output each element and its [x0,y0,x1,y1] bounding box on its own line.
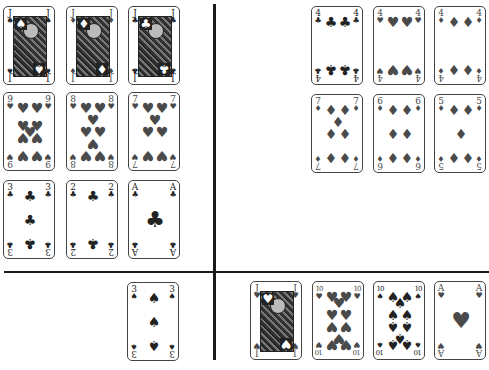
clubs-icon: ♣ [107,191,115,199]
hearts-icon: ♥ [262,293,274,305]
card-index-corner: 10♠ [376,284,384,301]
rank-label: 10 [316,348,323,356]
card-index-corner: 3♠ [130,342,138,358]
card-index-corner: 6♦ [414,97,422,113]
hearts-icon: ♥ [6,152,14,160]
hearts-icon: ♥ [386,63,400,77]
card-index-corner: 10♥ [353,340,361,357]
hearts-icon: ♥ [30,131,44,145]
diamonds-icon: ♦ [454,127,468,141]
jack-portrait: ♠♠ [13,16,47,77]
playing-card-j-of-spades[interactable]: J♠J♠J♠J♠♠♠ [3,6,55,85]
playing-card-a-of-hearts[interactable]: A♥A♥A♥A♥♥ [434,281,486,360]
diamonds-icon: ♦ [461,63,475,77]
clubs-icon: ♣ [86,237,100,251]
playing-card-3-of-spades[interactable]: 3♠3♠3♠3♠♠♠♠ [127,282,179,361]
playing-card-j-of-diamonds[interactable]: J♦J♦J♦J♦♦♦ [66,6,118,85]
spades-icon: ♠ [130,342,138,350]
playing-card-j-of-hearts[interactable]: J♥J♥J♥J♥♥♥ [250,281,302,360]
playing-card-5-of-diamonds[interactable]: 5♦5♦5♦5♦♦♦♦♦♦ [434,94,486,173]
jack-portrait: ♦♦ [76,16,110,77]
spades-icon: ♠ [386,338,400,352]
hearts-icon: ♥ [107,103,115,111]
jack-portrait: ♣♣ [138,16,172,77]
hearts-icon: ♥ [155,125,169,139]
clubs-icon: ♣ [338,15,352,29]
diamonds-icon: ♦ [352,105,360,113]
hearts-icon: ♥ [475,292,483,300]
playing-card-7-of-diamonds[interactable]: 7♦7♦7♦7♦♦♦♦♦♦♦♦ [311,94,363,173]
playing-card-10-of-hearts[interactable]: 10♥10♥10♥10♥♥♥♥♥♥♥♥♥♥♥ [312,281,364,360]
card-index-corner: 10♥ [353,284,361,301]
rank-label: 10 [354,348,361,356]
card-index-corner: 5♦ [437,97,445,113]
card-index-corner: 3♠ [168,285,176,301]
playing-card-7-of-hearts[interactable]: 7♥7♥7♥7♥♥♥♥♥♥♥♥ [128,92,180,171]
playing-card-9-of-hearts[interactable]: 9♥9♥9♥9♥♥♥♥♥♥♥♥♥♥ [3,92,55,171]
hearts-icon: ♥ [315,293,323,301]
horizontal-divider [4,271,489,273]
diamonds-icon: ♦ [437,154,445,162]
diamonds-icon: ♦ [437,105,445,113]
clubs-icon: ♣ [23,237,37,251]
hearts-icon: ♥ [107,152,115,160]
hearts-icon: ♥ [437,341,445,349]
spades-icon: ♠ [376,293,384,301]
card-index-corner: 3♣ [6,240,14,256]
card-index-corner: 8♥ [107,152,115,168]
spades-icon: ♠ [168,342,176,350]
clubs-icon: ♣ [314,17,322,25]
playing-card-j-of-clubs[interactable]: J♣J♣J♣J♣♣♣ [128,6,180,85]
playing-card-3-of-clubs[interactable]: 3♣3♣3♣3♣♣♣♣ [3,180,55,259]
hearts-icon: ♥ [315,340,323,348]
playing-card-4-of-clubs[interactable]: 4♣4♣4♣4♣♣♣♣♣ [311,6,363,85]
diamonds-icon: ♦ [314,105,322,113]
spades-icon: ♠ [130,293,138,301]
diamonds-icon: ♦ [447,63,461,77]
card-index-corner: 3♣ [44,240,52,256]
playing-card-6-of-diamonds[interactable]: 6♦6♦6♦6♦♦♦♦♦♦♦ [373,94,425,173]
hearts-icon: ♥ [155,149,169,163]
card-index-corner: 7♥ [131,152,139,168]
playing-card-2-of-clubs[interactable]: 2♣2♣2♣2♣♣♣ [66,180,118,259]
hearts-icon: ♥ [93,149,107,163]
diamonds-icon: ♦ [461,103,475,117]
hearts-icon: ♥ [400,63,414,77]
playing-card-a-of-clubs[interactable]: A♣A♣A♣A♣♣ [128,180,180,259]
diamonds-icon: ♦ [475,66,483,74]
diamonds-icon: ♦ [400,151,414,165]
playing-card-4-of-diamonds[interactable]: 4♦4♦4♦4♦♦♦♦♦ [434,6,486,85]
clubs-icon: ♣ [314,66,322,74]
playing-card-10-of-spades[interactable]: 10♠10♠10♠10♠♠♠♠♠♠♠♠♠♠♠ [373,281,425,360]
diamonds-icon: ♦ [461,15,475,29]
diamonds-icon: ♦ [338,127,352,141]
hearts-icon: ♥ [169,103,177,111]
card-index-corner: 10♥ [315,284,323,301]
card-index-corner: 7♥ [169,95,177,111]
hearts-icon: ♥ [131,103,139,111]
card-index-corner: 4♦ [437,66,445,82]
hearts-icon: ♥ [44,103,52,111]
playing-card-4-of-hearts[interactable]: 4♥4♥4♥4♥♥♥♥♥ [373,6,425,85]
clubs-icon: ♣ [69,191,77,199]
spades-icon: ♠ [414,293,422,301]
clubs-icon: ♣ [324,15,338,29]
diamonds-icon: ♦ [352,154,360,162]
card-index-corner: 7♦ [352,97,360,113]
hearts-icon: ♥ [141,149,155,163]
diamonds-icon: ♦ [414,154,422,162]
spades-icon: ♠ [414,340,422,348]
hearts-icon: ♥ [141,125,155,139]
diamonds-icon: ♦ [400,127,414,141]
clubs-icon: ♣ [44,240,52,248]
diamonds-icon: ♦ [376,105,384,113]
playing-card-8-of-hearts[interactable]: 8♥8♥8♥8♥♥♥♥♥♥♥♥♥ [66,92,118,171]
card-index-corner: 7♥ [131,95,139,111]
hearts-icon: ♥ [16,101,30,115]
card-index-corner: 9♥ [6,95,14,111]
card-index-corner: A♣ [169,240,177,256]
card-index-corner: 6♦ [376,154,384,170]
hearts-icon: ♥ [414,66,422,74]
spades-icon: ♠ [147,315,161,329]
card-index-corner: 4♣ [314,9,322,25]
